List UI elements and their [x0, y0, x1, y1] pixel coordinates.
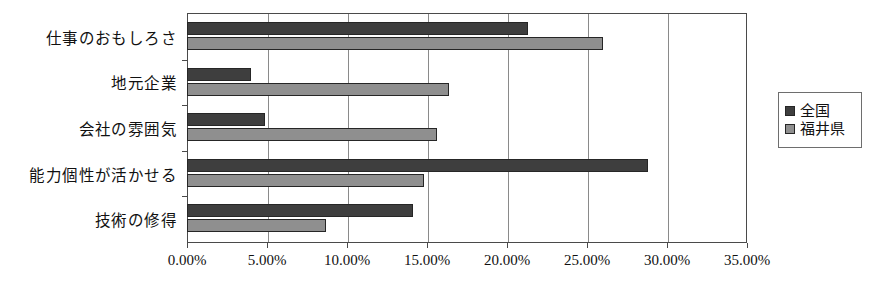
legend-swatch-national-icon — [785, 106, 795, 116]
bar-fukui — [187, 219, 326, 232]
x-axis-tick-label: 10.00% — [324, 252, 370, 269]
bar-fukui — [187, 128, 437, 141]
bar-national — [187, 113, 265, 126]
legend-label: 全国 — [800, 104, 830, 119]
bar-national — [187, 22, 528, 35]
x-axis-tick — [187, 243, 188, 248]
bar-row — [187, 196, 746, 242]
x-axis-tick-label: 0.00% — [168, 252, 207, 269]
x-axis-tick — [507, 243, 508, 248]
y-axis-labels: 仕事のおもしろさ地元企業会社の雰囲気能力個性が活かせる技術の修得 — [0, 14, 181, 242]
x-axis-tick-label: 30.00% — [644, 252, 690, 269]
x-axis-tick — [667, 243, 668, 248]
x-axis-labels: 0.00%5.00%10.00%15.00%20.00%25.00%30.00%… — [0, 252, 877, 274]
bar-national — [187, 68, 251, 81]
bar-chart: 仕事のおもしろさ地元企業会社の雰囲気能力個性が活かせる技術の修得 0.00%5.… — [0, 0, 877, 298]
y-axis-tick — [182, 60, 187, 61]
legend-item-national[interactable]: 全国 — [785, 104, 856, 119]
y-axis-category-label: 仕事のおもしろさ — [0, 14, 181, 60]
x-axis-tick — [267, 243, 268, 248]
x-axis-tick — [747, 243, 748, 248]
legend-item-fukui[interactable]: 福井県 — [785, 122, 856, 137]
x-axis-tick-label: 35.00% — [724, 252, 770, 269]
bar-fukui — [187, 37, 603, 50]
x-axis-tick — [587, 243, 588, 248]
x-axis-tick — [427, 243, 428, 248]
y-axis-category-label: 技術の修得 — [0, 196, 181, 242]
bar-row — [187, 151, 746, 197]
bar-row — [187, 105, 746, 151]
bar-row — [187, 60, 746, 106]
y-axis-tick — [182, 196, 187, 197]
bar-fukui — [187, 83, 449, 96]
y-axis-category-label: 能力個性が活かせる — [0, 151, 181, 197]
x-axis-tick-label: 25.00% — [564, 252, 610, 269]
y-axis-tick — [182, 151, 187, 152]
legend-swatch-fukui-icon — [785, 124, 795, 134]
bar-row — [187, 14, 746, 60]
x-axis-tick — [347, 243, 348, 248]
legend-label: 福井県 — [800, 122, 845, 137]
y-axis-category-label: 会社の雰囲気 — [0, 105, 181, 151]
bar-rows — [187, 14, 746, 242]
y-axis-category-label: 地元企業 — [0, 60, 181, 106]
bar-national — [187, 204, 413, 217]
bar-fukui — [187, 174, 424, 187]
x-axis-tick-label: 15.00% — [404, 252, 450, 269]
x-axis-tick-label: 5.00% — [248, 252, 287, 269]
bar-national — [187, 159, 648, 172]
x-axis-tick-label: 20.00% — [484, 252, 530, 269]
legend: 全国福井県 — [778, 92, 862, 148]
y-axis-tick — [182, 105, 187, 106]
